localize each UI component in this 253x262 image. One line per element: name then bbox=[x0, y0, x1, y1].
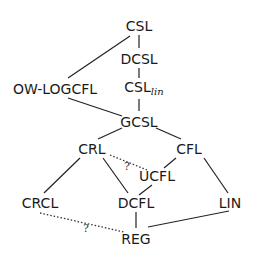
node-lin: LIN bbox=[219, 195, 241, 211]
node-dcfl: DCFL bbox=[118, 195, 154, 211]
question-mark-crcl-reg: ? bbox=[83, 222, 89, 235]
node-gcsl: GCSL bbox=[120, 114, 157, 130]
edge-cfl-lin bbox=[204, 158, 228, 193]
node-crl: CRL bbox=[78, 141, 105, 157]
node-crcl: CRCL bbox=[22, 195, 58, 211]
edge-gcsl-crl bbox=[98, 128, 122, 139]
edge-lin-reg bbox=[148, 211, 229, 227]
node-ucfl: UCFL bbox=[139, 168, 175, 184]
node-dcsl: DCSL bbox=[120, 51, 157, 67]
edge-crl-crcl bbox=[44, 158, 80, 193]
edge-cfl-ucfl bbox=[164, 158, 176, 168]
question-mark-crl-ucfl: ? bbox=[124, 160, 130, 173]
edges-layer bbox=[0, 0, 253, 262]
node-csl: CSL bbox=[126, 18, 152, 34]
node-cfl: CFL bbox=[176, 141, 202, 157]
edge-crcl-reg-dotted bbox=[40, 213, 124, 232]
node-csl-lin: CSLlin bbox=[124, 79, 163, 100]
node-ow-logcfl: OW-LOGCFL bbox=[13, 81, 97, 97]
edge-owlogcfl-gcsl bbox=[68, 98, 122, 116]
node-csl-lin-subscript: lin bbox=[151, 86, 164, 97]
edge-gcsl-cfl bbox=[156, 128, 181, 139]
node-csl-lin-label: CSL bbox=[124, 79, 150, 95]
node-reg: REG bbox=[121, 231, 150, 247]
edge-ucfl-dcfl bbox=[139, 185, 152, 195]
